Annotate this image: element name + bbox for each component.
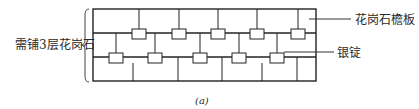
- dovetail-anchor-icon: [232, 53, 246, 63]
- dovetail-anchor-icon: [132, 29, 146, 39]
- callout-eave-label: 花岗石檐板: [355, 12, 415, 27]
- slab-outline: [93, 9, 316, 81]
- dovetail-anchor-icon: [291, 29, 305, 39]
- dovetail-anchor-icon: [270, 53, 284, 63]
- dovetail-anchor-icon: [211, 29, 225, 39]
- dovetail-anchor-icon: [250, 29, 264, 39]
- left-label: 需铺3层花岗石: [15, 37, 95, 52]
- dovetail-anchor-icon: [148, 53, 162, 63]
- dovetail-anchor-icon: [172, 29, 186, 39]
- dovetail-anchor-icon: [109, 53, 123, 63]
- granite-eave-diagram: 需铺3层花岗石 花岗石檐板 银锭 (a): [0, 0, 419, 109]
- dovetail-anchor-icon: [193, 53, 207, 63]
- figure-caption: (a): [195, 95, 209, 106]
- callout-anchor-label: 银锭: [337, 46, 361, 60]
- top-course-joints: [132, 9, 305, 39]
